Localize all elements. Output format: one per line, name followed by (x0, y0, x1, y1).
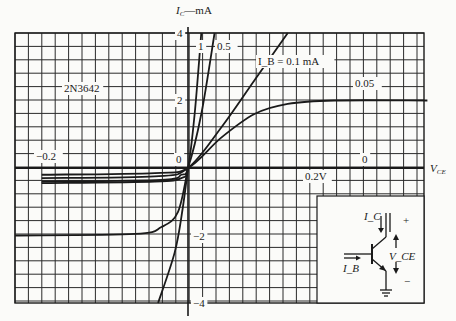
vce-inset-label: V_CE (389, 250, 416, 262)
device-label: 2N3642 (64, 82, 99, 94)
curve-label-1: 1 (198, 40, 204, 52)
curve-label-0.1: I_B = 0.1 mA (258, 55, 319, 67)
minus-sign: − (404, 275, 410, 287)
curve-label-0.5: 0.5 (217, 40, 231, 52)
x-tick-0.2V: 0.2V (305, 170, 327, 182)
y-tick-neg4: −4 (193, 297, 205, 309)
curve-label-0: 0 (362, 153, 368, 165)
y-axis-label: IC—mA (175, 4, 212, 18)
x-axis-label: VCE (430, 162, 446, 176)
curve-label-0.05: 0.05 (355, 77, 375, 89)
plus-sign: + (403, 214, 409, 226)
origin-label: 0 (176, 153, 182, 165)
ic-inset-label: I_C (363, 210, 381, 222)
ib-inset-label: I_B (342, 262, 359, 274)
y-tick-4: 4 (177, 27, 183, 39)
curve-label-neg0.2: −0.2 (36, 150, 56, 162)
y-tick-neg2: −2 (193, 230, 205, 242)
transistor-characteristic-chart: I_C + V_CE I_B − 42−2−400.2V−0.22N364210… (0, 0, 456, 321)
circuit-inset: I_C + V_CE I_B − (317, 196, 424, 303)
y-tick-2: 2 (177, 94, 183, 106)
curve-i-b-0-1-ma (42, 33, 288, 178)
